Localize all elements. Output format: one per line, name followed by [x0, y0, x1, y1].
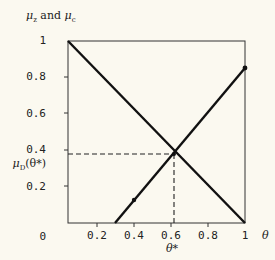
y-ticks	[64, 77, 68, 186]
mu-z-line	[68, 41, 245, 223]
plot-area	[0, 0, 275, 260]
marker-point	[132, 198, 136, 202]
x-ticks	[97, 223, 208, 227]
marker-end-point	[243, 66, 248, 71]
intersection-point	[172, 152, 176, 156]
